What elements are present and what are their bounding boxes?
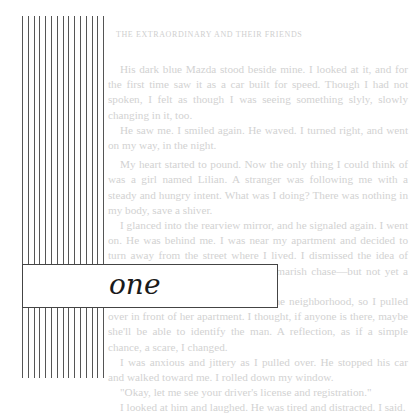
body-text: His dark blue Mazda stood beside mine. I… <box>108 62 408 416</box>
paragraph: My heart started to pound. Now the only … <box>108 157 408 218</box>
paragraph: I looked at him and laughed. He was tire… <box>108 400 408 415</box>
paragraph: "Okay, let me see your driver's license … <box>108 385 408 400</box>
chapter-label: one <box>109 269 160 301</box>
vertical-stripes-decoration <box>22 16 106 378</box>
paragraph: He saw me. I smiled again. He waved. I t… <box>108 123 408 153</box>
running-head: the extraordinary and their friends <box>116 30 302 39</box>
chapter-label-box: one <box>22 264 278 308</box>
paragraph: His dark blue Mazda stood beside mine. I… <box>108 62 408 123</box>
paragraph: I was anxious and jittery as I pulled ov… <box>108 355 408 385</box>
